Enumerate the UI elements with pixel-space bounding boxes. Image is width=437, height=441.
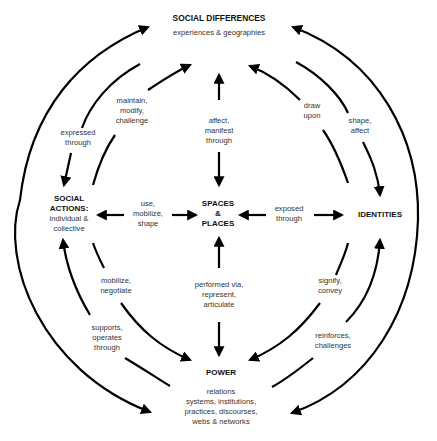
social-actions-title-2: ACTIONS:	[50, 204, 89, 214]
label-line: supports,	[91, 323, 122, 333]
label-line: mobilize,	[133, 209, 163, 219]
social-actions-sub-1: individual &	[50, 214, 89, 224]
label-line: challenges	[315, 341, 351, 351]
identities-title: IDENTITIES	[358, 210, 402, 220]
social-differences-title: SOCIAL DIFFERENCES	[173, 13, 266, 23]
label-reinforces-challenges: reinforces, challenges	[315, 331, 351, 351]
node-spaces-places: SPACES & PLACES	[202, 199, 234, 229]
label-line: upon	[304, 111, 321, 121]
node-social-actions: SOCIAL ACTIONS: individual & collective	[50, 194, 89, 234]
label-line: signify,	[318, 276, 342, 286]
label-line: through	[205, 136, 234, 146]
social-actions-sub-2: collective	[50, 224, 89, 234]
label-shape-affect: shape, affect	[349, 116, 372, 136]
node-power: POWER relations systems, institutions, p…	[184, 368, 257, 427]
power-sub-2: systems, institutions,	[184, 397, 257, 407]
label-line: shape	[133, 219, 163, 229]
label-line: operates	[91, 333, 122, 343]
label-line: articulate	[195, 300, 244, 310]
label-affect-manifest-through: affect, manifest through	[205, 116, 234, 146]
label-line: through	[275, 214, 304, 224]
label-line: shape,	[349, 116, 372, 126]
power-sub-4: webs & networks	[184, 417, 257, 427]
power-sub-1: relations	[184, 387, 257, 397]
label-line: affect,	[205, 116, 234, 126]
label-expressed-through: expressed through	[60, 128, 95, 148]
label-line: modify,	[116, 106, 149, 116]
label-line: manifest	[205, 126, 234, 136]
label-line: maintain,	[116, 96, 149, 106]
power-title: POWER	[184, 368, 257, 378]
power-sub-3: practices, discourses,	[184, 407, 257, 417]
label-supports-operates-through: supports, operates through	[91, 323, 122, 353]
spaces-places-line-2: &	[202, 209, 234, 219]
label-line: affect	[349, 126, 372, 136]
social-actions-title-1: SOCIAL	[50, 194, 89, 204]
node-social-differences: SOCIAL DIFFERENCES experiences & geograp…	[173, 13, 266, 38]
label-line: through	[91, 343, 122, 353]
label-line: mobilize,	[100, 276, 131, 286]
label-line: challenge	[116, 116, 149, 126]
label-performed-via: performed via, represent, articulate	[195, 280, 244, 310]
label-maintain-modify-challenge: maintain, modify, challenge	[116, 96, 149, 126]
social-differences-subtitle: experiences & geographies	[173, 28, 266, 38]
label-line: through	[60, 138, 95, 148]
label-line: negotiate	[100, 286, 131, 296]
label-line: draw	[304, 101, 321, 111]
label-line: represent,	[195, 290, 244, 300]
label-exposed-through: exposed through	[275, 204, 304, 224]
label-line: performed via,	[195, 280, 244, 290]
label-line: use,	[133, 199, 163, 209]
label-signify-convey: signify, convey	[318, 276, 342, 296]
label-use-mobilize-shape: use, mobilize, shape	[133, 199, 163, 229]
node-identities: IDENTITIES	[358, 210, 402, 220]
outer-right-arc	[292, 27, 418, 413]
label-line: exposed	[275, 204, 304, 214]
spaces-places-line-3: PLACES	[202, 219, 234, 229]
spaces-places-line-1: SPACES	[202, 199, 234, 209]
label-draw-upon: draw upon	[304, 101, 321, 121]
label-line: reinforces,	[315, 331, 351, 341]
label-mobilize-negotiate: mobilize, negotiate	[100, 276, 131, 296]
label-line: convey	[318, 286, 342, 296]
label-line: expressed	[60, 128, 95, 138]
